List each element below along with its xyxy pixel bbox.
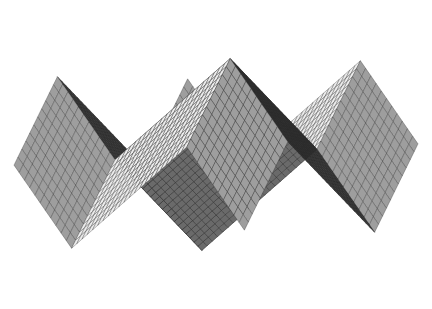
surface-plot-figure	[0, 0, 432, 309]
surface-mesh-canvas	[0, 0, 432, 309]
